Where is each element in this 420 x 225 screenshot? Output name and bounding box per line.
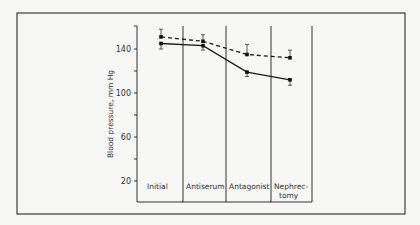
- axes: [134, 26, 312, 202]
- y-tick-label: 20: [121, 177, 131, 186]
- category-labels: InitialAntiserumAntagonistNephrec-tomy: [147, 182, 308, 200]
- category-label: Antagonist: [229, 182, 270, 191]
- category-label: Nephrec-: [274, 182, 308, 191]
- y-axis-label: Blood pressure, mm Hg: [106, 70, 115, 158]
- y-tick-label: 140: [116, 45, 131, 54]
- y-tick-label: 100: [116, 89, 131, 98]
- chart: 2060100140 InitialAntiserumAntagonistNep…: [0, 0, 420, 225]
- data-point-dashed: [159, 35, 163, 39]
- category-label: tomy: [279, 191, 299, 200]
- data-point-dashed: [201, 40, 205, 44]
- data-point-solid: [288, 78, 292, 82]
- data-point-solid: [201, 44, 205, 48]
- data-point-dashed: [288, 56, 292, 60]
- category-label: Antiserum: [186, 182, 225, 191]
- category-label: Initial: [147, 182, 168, 191]
- data-point-solid: [159, 42, 163, 46]
- y-tick-label: 60: [121, 133, 131, 142]
- y-ticks: 2060100140: [116, 45, 137, 186]
- data-point-solid: [245, 70, 249, 74]
- data-point-dashed: [245, 53, 249, 57]
